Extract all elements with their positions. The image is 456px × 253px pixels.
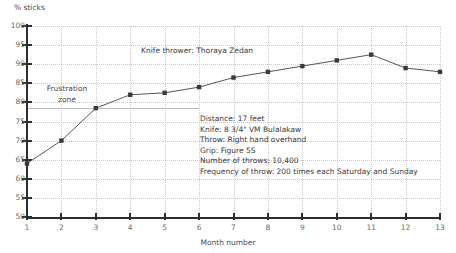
data-point-marker	[128, 93, 132, 97]
data-point-marker	[94, 106, 98, 110]
detail-line-3: Throw: Right hand overhand	[200, 135, 418, 146]
chart-title: Knife thrower: Thoraya Zedan	[141, 46, 253, 55]
detail-line-6: Frequency of throw: 200 times each Satur…	[200, 167, 418, 178]
data-point-marker	[266, 70, 270, 74]
data-point-marker	[300, 64, 304, 68]
data-point-marker	[369, 52, 373, 56]
line-chart: % sticks Frustration zone 50556065707580…	[0, 0, 456, 253]
data-point-marker	[162, 91, 166, 95]
data-point-marker	[197, 85, 201, 89]
x-axis-title: Month number	[0, 238, 456, 247]
data-point-marker	[335, 58, 339, 62]
data-point-marker	[231, 75, 235, 79]
data-point-marker	[403, 66, 407, 70]
details-annotation-block: Distance: 17 feetKnife: 8 3/4" VM Bulala…	[200, 114, 418, 178]
detail-line-4: Grip: Figure 5S	[200, 146, 418, 157]
data-point-marker	[59, 138, 63, 142]
data-point-marker	[438, 70, 442, 74]
detail-line-1: Distance: 17 feet	[200, 114, 418, 125]
data-point-marker	[25, 161, 29, 165]
detail-line-2: Knife: 8 3/4" VM Bulalakaw	[200, 125, 418, 136]
detail-line-5: Number of throws: 10,400	[200, 156, 418, 167]
